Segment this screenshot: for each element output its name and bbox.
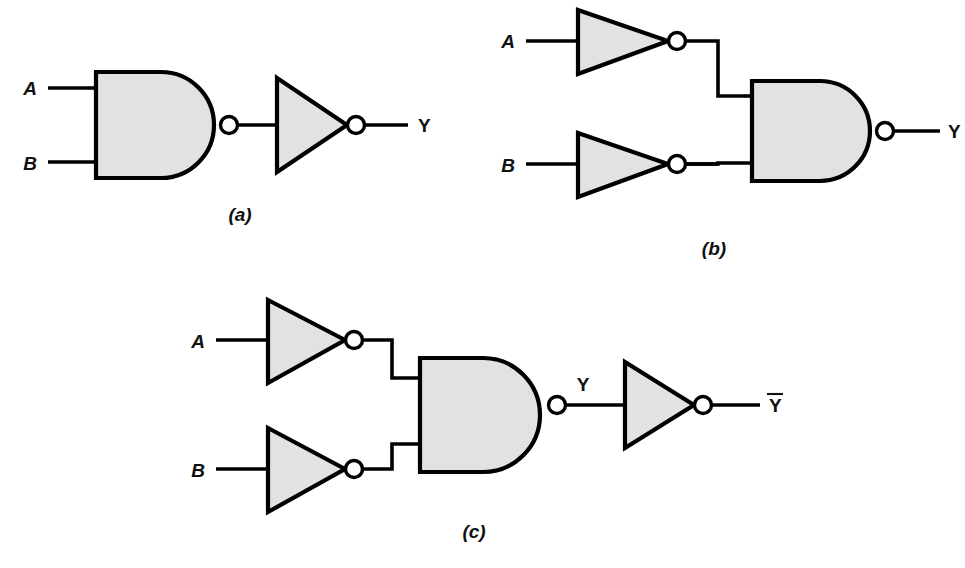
nand-gate-a — [96, 72, 214, 178]
nand-gate-c — [420, 358, 540, 472]
nand-gate-b-bubble-icon — [877, 123, 894, 140]
inverter-a-bubble-icon — [346, 332, 363, 349]
circuit-diagram-canvas: ABY(a)ABY(b)ABYY(c) — [0, 0, 965, 568]
inverter-a-bubble-icon — [669, 33, 686, 50]
caption-c: (c) — [462, 521, 485, 542]
logic-circuit-figure: ABY(a)ABY(b)ABYY(c) — [0, 0, 965, 568]
nand-gate-c-bubble-icon — [549, 397, 566, 414]
output-label-a: Y — [418, 115, 431, 136]
nand-gate-b — [752, 81, 870, 181]
inverter-b-bubble-icon — [346, 461, 363, 478]
inverter-b-bubble-icon — [669, 156, 686, 173]
input-label-a: A — [190, 331, 205, 352]
caption-a: (a) — [228, 204, 251, 225]
input-label-b: B — [23, 153, 37, 174]
input-label-b: B — [191, 460, 205, 481]
inverter-a-bubble-icon — [348, 117, 365, 134]
caption-b: (b) — [702, 238, 726, 259]
input-label-b: B — [501, 155, 515, 176]
output-label-b: Y — [948, 121, 961, 142]
wire-inverter-b-step2 — [686, 163, 752, 164]
output-inverter-bubble-icon — [695, 397, 712, 414]
output-label-c: Y — [769, 395, 782, 416]
input-label-a: A — [500, 31, 515, 52]
intermediate-label-y: Y — [577, 374, 590, 395]
input-label-a: A — [22, 78, 37, 99]
nand-gate-a-bubble-icon — [221, 117, 238, 134]
